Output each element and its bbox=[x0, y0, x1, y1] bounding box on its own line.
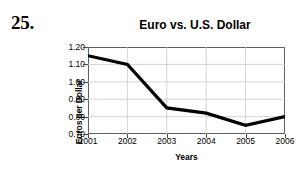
page-root: 25. Euro vs. U.S. Dollar 1.201.101.000.9… bbox=[0, 0, 301, 182]
chart-figure: Euro vs. U.S. Dollar 1.201.101.000.900.8… bbox=[0, 0, 301, 182]
y-axis-tick-label: 1.10 bbox=[58, 60, 85, 69]
gridlines bbox=[88, 47, 285, 134]
x-axis-tick-label: 2004 bbox=[189, 137, 223, 146]
x-axis-tick-label: 2006 bbox=[268, 137, 301, 146]
x-axis-tick-label: 2003 bbox=[150, 137, 184, 146]
x-axis-tick bbox=[167, 134, 168, 138]
x-axis-tick bbox=[88, 134, 89, 138]
y-axis-title: Euros per Dollar bbox=[74, 76, 84, 148]
x-axis-tick bbox=[246, 134, 247, 138]
x-axis-tick-label: 2005 bbox=[229, 137, 263, 146]
y-axis-tick bbox=[83, 64, 88, 65]
x-axis-tick bbox=[127, 134, 128, 138]
y-axis-title-container: Euros per Dollar bbox=[48, 49, 60, 135]
plot-area bbox=[88, 47, 285, 134]
data-line-series bbox=[88, 56, 285, 126]
y-axis-tick-label: 1.20 bbox=[58, 43, 85, 52]
x-axis-title: Years bbox=[88, 152, 285, 162]
x-axis-tick-labels: 200120022003200420052006 bbox=[60, 137, 301, 151]
x-axis-tick-label: 2002 bbox=[110, 137, 144, 146]
chart-title: Euro vs. U.S. Dollar bbox=[105, 18, 285, 32]
y-axis-tick bbox=[83, 47, 88, 48]
x-axis-tick bbox=[206, 134, 207, 138]
x-axis-tick bbox=[285, 134, 286, 138]
